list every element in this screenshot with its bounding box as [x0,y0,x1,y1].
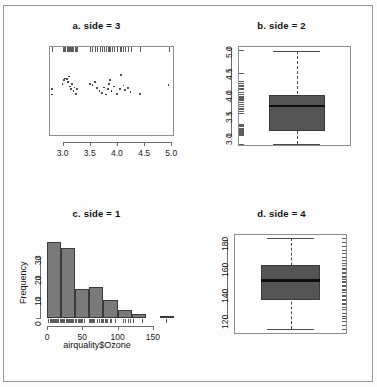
x-axis-line [47,326,153,327]
rug-tick [169,47,170,52]
rug-tick [111,319,112,323]
rug-tick [342,285,347,286]
rug-tick [342,242,347,243]
rug-tick [97,47,98,52]
rug-tick [239,94,244,95]
y-axis-label: 3.0 [224,133,234,145]
rug-tick [342,313,347,314]
rug-tick [342,309,347,310]
data-point [89,83,91,85]
rug-tick [342,279,347,280]
y-axis-line [227,240,228,318]
x-axis-label: 4.0 [108,148,126,158]
median-line [261,279,320,282]
rug-tick [342,272,347,273]
data-point [116,93,118,95]
rug-tick [121,47,122,52]
x-axis-tick [63,142,64,146]
box-iqr [261,265,320,300]
rug-tick [342,257,347,258]
rug-tick [342,263,347,264]
rug-tick [239,124,244,125]
rug-tick [117,47,118,52]
rug-tick [239,96,244,97]
rug-tick [342,299,347,300]
data-point [67,81,69,83]
rug-tick [342,307,347,308]
rug-tick [239,125,244,126]
rug-tick [131,47,132,52]
rug-tick [239,129,244,130]
x-axis-label: 4.5 [135,148,153,158]
rug-tick [239,129,244,130]
y-axis-label: 180 [220,237,230,251]
data-point [96,87,98,89]
x-axis-label: 3.0 [54,148,72,158]
histogram-bar [47,242,61,318]
rug-tick [342,282,347,283]
rug-tick [239,144,244,145]
rug-tick [114,47,115,52]
panel-d-boxplot: d. side = 4 180160140120 [189,194,374,383]
x-axis-label: 5.0 [162,148,180,158]
y-axis-label: 20 [33,276,43,285]
rug-tick [342,303,347,304]
data-point [127,87,129,89]
rug-tick [64,319,65,323]
rug-tick [239,131,244,132]
x-axis-tick [118,326,119,330]
rug-tick [239,89,244,90]
rug-tick [133,319,134,323]
rug-tick [239,99,244,100]
rug-tick [128,47,129,52]
rug-tick [115,319,116,323]
rug-tick [342,286,347,287]
x-axis-tick [90,142,91,146]
histogram-bar [160,316,174,318]
data-point [139,93,141,95]
rug-tick [239,85,244,86]
rug-tick [128,319,129,323]
rug-tick [342,238,347,239]
figure-canvas: a. side = 3 3.03.54.04.55.0 b. side = 2 … [0,0,377,387]
rug-tick [342,265,347,266]
data-point [108,83,110,85]
rug-tick [342,325,347,326]
rug-tick [342,246,347,247]
rug-tick [239,81,244,82]
rug-tick [342,316,347,317]
rug-tick [239,73,244,74]
x-axis-label: 3.5 [81,148,99,158]
panel-d-title: d. side = 4 [189,208,374,219]
rug-tick [142,319,143,323]
data-point [109,79,111,81]
y-axis-label: 10 [33,296,43,305]
panel-b-title: b. side = 2 [189,20,374,31]
box-iqr [269,95,326,131]
rug-tick [342,300,347,301]
rug-tick [239,104,244,105]
rug-tick [76,319,77,323]
data-point [70,88,72,90]
histogram-bar [118,310,132,318]
x-axis-tick [171,142,172,146]
data-point [71,83,73,85]
x-axis-tick [144,142,145,146]
y-axis-label: 140 [220,289,230,303]
y-axis-label: 0 [33,321,43,326]
rug-tick [140,47,141,52]
rug-tick [342,318,347,319]
y-axis-label: 160 [220,263,230,277]
rug-tick [239,132,244,133]
rug-tick [342,321,347,322]
rug-tick [239,135,244,136]
y-axis-line [40,257,41,319]
rug-tick [94,319,95,323]
rug-tick [239,50,244,51]
device-frame: a. side = 3 3.03.54.04.55.0 b. side = 2 … [3,5,373,382]
histogram-bar [75,289,89,318]
data-point [119,88,121,90]
rug-tick [239,106,244,107]
rug-tick [84,319,85,323]
lower-whisker-cap [273,144,320,145]
